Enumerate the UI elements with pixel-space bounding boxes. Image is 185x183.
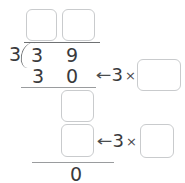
quotient-tens-value bbox=[27, 10, 56, 40]
first-multiplicand-value bbox=[138, 60, 180, 90]
first-subtrahend-digit-ones: 0 bbox=[64, 67, 80, 86]
division-vinculum bbox=[24, 42, 100, 43]
first-multiplier-value: 3 bbox=[112, 66, 123, 84]
second-multiply-annotation: ← 3 × bbox=[98, 132, 137, 150]
first-multiply-annotation: ← 3 × bbox=[97, 66, 136, 84]
quotient-ones-box[interactable] bbox=[62, 9, 95, 41]
first-difference-box[interactable] bbox=[61, 90, 94, 122]
divisor-digit: 3 bbox=[8, 45, 22, 64]
dividend-digit-ones: 9 bbox=[64, 46, 80, 65]
second-multiplicand-value bbox=[141, 125, 173, 157]
first-subtrahend-digit-tens: 3 bbox=[30, 67, 46, 86]
second-subtrahend-value bbox=[62, 125, 93, 156]
arrow-left-icon: ← bbox=[96, 134, 112, 149]
quotient-ones-value bbox=[63, 10, 94, 40]
second-subtrahend-box[interactable] bbox=[61, 124, 94, 157]
long-division-worksheet: 3 3 9 3 0 ← 3 × ← 3 × 0 bbox=[0, 0, 185, 183]
first-multiplicand-box[interactable] bbox=[137, 59, 181, 91]
multiplication-sign-icon: × bbox=[125, 69, 136, 82]
arrow-left-icon: ← bbox=[95, 68, 111, 83]
quotient-tens-box[interactable] bbox=[26, 9, 57, 41]
second-multiplicand-box[interactable] bbox=[140, 124, 174, 158]
first-subtraction-rule bbox=[21, 87, 96, 88]
remainder-digit: 0 bbox=[68, 165, 84, 183]
second-multiplier-value: 3 bbox=[113, 132, 124, 150]
dividend-digit-tens: 3 bbox=[29, 46, 45, 65]
first-difference-value bbox=[62, 91, 93, 121]
multiplication-sign-icon: × bbox=[126, 135, 137, 148]
